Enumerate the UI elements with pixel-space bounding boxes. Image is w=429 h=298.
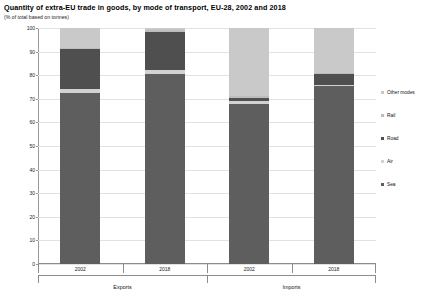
bar-segment-other-modes[interactable] [60, 28, 100, 48]
y-axis-tick-label: 30 [29, 190, 35, 196]
x-axis-separator [123, 264, 124, 273]
x-axis-separator [38, 264, 39, 273]
legend-swatch-icon [381, 183, 384, 186]
x-axis-separator [292, 264, 293, 273]
y-axis-tick-label: 40 [29, 167, 35, 173]
group-axis-tick [38, 275, 39, 283]
legend-item-label: Road [387, 134, 398, 143]
bar-segment-rail[interactable] [229, 96, 269, 97]
bar-segment-road[interactable] [60, 49, 100, 89]
legend-item-label: Other modes [387, 88, 415, 97]
x-axis-year-label: 2002 [38, 266, 123, 272]
bar-segment-sea[interactable] [314, 86, 354, 264]
y-axis-tick-mark [36, 28, 38, 29]
bar-segment-road[interactable] [229, 98, 269, 102]
bar-stack[interactable] [314, 28, 354, 264]
y-axis-tick-mark [36, 170, 38, 171]
bar-segment-air[interactable] [60, 89, 100, 93]
legend-item-label: Rail [387, 111, 395, 120]
y-axis-tick-mark [36, 193, 38, 194]
x-axis-year-label: 2018 [292, 266, 377, 272]
plot-area: 1009080706050403020100 [38, 28, 376, 264]
x-axis-group-label: Imports [207, 284, 376, 290]
y-axis-tick-mark [36, 75, 38, 76]
x-axis-year-label: 2018 [123, 266, 208, 272]
y-axis-tick-label: 100 [27, 25, 35, 31]
group-axis-tick [375, 275, 376, 283]
bar-segment-road[interactable] [145, 32, 185, 71]
legend-item[interactable]: Other modes [381, 88, 427, 111]
bar-stack[interactable] [60, 28, 100, 264]
bar-segment-sea[interactable] [60, 93, 100, 264]
legend-item[interactable]: Road [381, 134, 427, 157]
bar-segment-sea[interactable] [229, 104, 269, 264]
x-axis-separator [207, 264, 208, 273]
legend-swatch-icon [381, 91, 384, 94]
bar-segment-rail[interactable] [314, 73, 354, 74]
group-axis-tick [207, 275, 208, 283]
bar-stack[interactable] [145, 28, 185, 264]
y-axis-tick-mark [36, 99, 38, 100]
bar-segment-other-modes[interactable] [145, 28, 185, 30]
y-axis-tick-label: 20 [29, 214, 35, 220]
bar-segment-air[interactable] [145, 70, 185, 74]
bar-segment-other-modes[interactable] [229, 28, 269, 96]
bar-segment-road[interactable] [314, 74, 354, 85]
y-axis-tick-label: 60 [29, 119, 35, 125]
legend-item[interactable]: Rail [381, 111, 427, 134]
chart-subtitle: (% of total based on tonnes) [4, 14, 69, 20]
bar-segment-rail[interactable] [145, 30, 185, 31]
y-axis-tick-label: 50 [29, 143, 35, 149]
y-axis-tick-label: 80 [29, 72, 35, 78]
y-axis-tick-mark [36, 122, 38, 123]
bar-segment-sea[interactable] [145, 74, 185, 264]
y-axis-tick-mark [36, 217, 38, 218]
bar-segment-air[interactable] [229, 101, 269, 103]
bar-segment-air[interactable] [314, 85, 354, 86]
legend-item-label: Air [387, 157, 393, 166]
y-axis-tick-label: 90 [29, 49, 35, 55]
legend-item-label: Sea [387, 180, 396, 189]
bar-stack[interactable] [229, 28, 269, 264]
y-axis-tick-label: 10 [29, 237, 35, 243]
y-axis-tick-label: 0 [32, 261, 35, 267]
y-axis-tick-mark [36, 240, 38, 241]
bar-segment-rail[interactable] [60, 48, 100, 49]
legend-swatch-icon [381, 114, 384, 117]
y-axis-tick-label: 70 [29, 96, 35, 102]
y-axis-tick-mark [36, 52, 38, 53]
plot-inner: 1009080706050403020100 [38, 28, 376, 264]
x-axis-group-label: Exports [38, 284, 207, 290]
y-axis-tick-mark [36, 146, 38, 147]
legend-item[interactable]: Sea [381, 180, 427, 203]
legend-swatch-icon [381, 160, 384, 163]
chart-title: Quantity of extra-EU trade in goods, by … [4, 3, 286, 12]
x-axis-separator [375, 264, 376, 273]
legend-item[interactable]: Air [381, 157, 427, 180]
legend-swatch-icon [381, 137, 384, 140]
bar-segment-other-modes[interactable] [314, 28, 354, 73]
chart-legend: Other modesRailRoadAirSea [381, 88, 427, 203]
chart-container: Quantity of extra-EU trade in goods, by … [0, 0, 429, 298]
x-axis-year-label: 2002 [207, 266, 292, 272]
